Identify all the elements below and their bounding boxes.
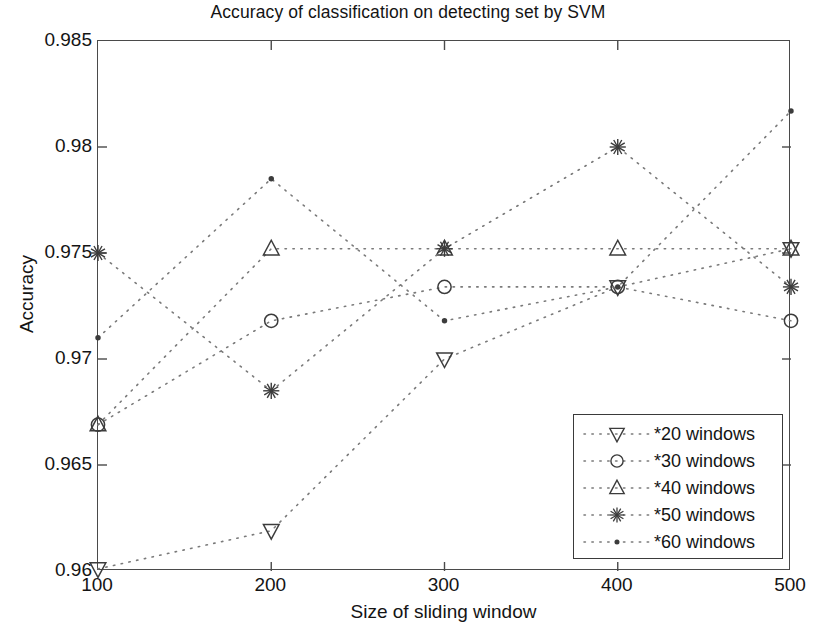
x-tick-label: 500 [774, 574, 806, 596]
y-tick-label: 0.975 [44, 241, 92, 263]
legend-sample-svg [580, 531, 654, 553]
legend-item-3[interactable]: *40 windows [574, 474, 782, 501]
data-point-marker-up-triangle [263, 240, 279, 255]
legend-marker-down-triangle-icon [580, 423, 654, 445]
legend-label: *40 windows [654, 477, 755, 499]
legend-marker-dot-icon [580, 531, 654, 553]
y-tick-label: 0.965 [44, 453, 92, 475]
x-axis-tick-labels: 100200300400500 [97, 574, 790, 600]
chart-legend: *20 windows*30 windows*40 windows*50 win… [573, 414, 783, 559]
data-point-marker-down-triangle [263, 525, 279, 540]
data-point-marker-dot [442, 318, 447, 323]
chart-figure: Accuracy of classification on detecting … [0, 0, 816, 634]
data-point-marker-asterisk [90, 245, 106, 261]
data-point-marker-dot [614, 539, 619, 544]
legend-sample-svg [580, 450, 654, 472]
series-line [98, 287, 791, 425]
y-axis-tick-labels: 0.960.9650.970.9750.980.985 [0, 40, 92, 570]
data-point-marker-down-triangle [610, 428, 624, 441]
series-line [98, 111, 791, 338]
x-axis-label: Size of sliding window [97, 601, 790, 623]
series-4 [90, 139, 799, 399]
series-3 [90, 240, 799, 431]
legend-sample-svg [580, 504, 654, 526]
x-tick-label: 200 [254, 574, 286, 596]
data-point-marker-asterisk [783, 279, 799, 295]
series-2 [91, 280, 797, 431]
legend-marker-asterisk-icon [580, 504, 654, 526]
series-line [98, 249, 791, 425]
data-point-marker-dot [788, 108, 793, 113]
data-point-marker-dot [615, 284, 620, 289]
legend-marker-circle-icon [580, 450, 654, 472]
data-point-marker-asterisk [610, 507, 625, 522]
data-point-marker-down-triangle [437, 353, 453, 368]
legend-sample-svg [580, 423, 654, 445]
data-point-marker-up-triangle [610, 240, 626, 255]
legend-item-1[interactable]: *20 windows [574, 420, 782, 447]
legend-label: *50 windows [654, 504, 755, 526]
chart-title: Accuracy of classification on detecting … [0, 2, 816, 23]
data-point-marker-circle [265, 314, 278, 327]
series-5 [95, 108, 793, 340]
legend-label: *20 windows [654, 423, 755, 445]
legend-item-5[interactable]: *60 windows [574, 528, 782, 555]
legend-item-4[interactable]: *50 windows [574, 501, 782, 528]
y-tick-label: 0.97 [55, 347, 92, 369]
data-point-marker-dot [269, 176, 274, 181]
y-axis-label: Accuracy [16, 204, 38, 384]
data-point-marker-up-triangle [610, 480, 624, 493]
legend-marker-up-triangle-icon [580, 477, 654, 499]
legend-label: *60 windows [654, 531, 755, 553]
data-point-marker-dot [95, 335, 100, 340]
legend-sample-svg [580, 477, 654, 499]
y-tick-label: 0.985 [44, 29, 92, 51]
legend-item-2[interactable]: *30 windows [574, 447, 782, 474]
legend-label: *30 windows [654, 450, 755, 472]
x-tick-label: 300 [428, 574, 460, 596]
y-tick-label: 0.98 [55, 135, 92, 157]
x-tick-label: 100 [81, 574, 113, 596]
x-tick-label: 400 [601, 574, 633, 596]
series-line [98, 147, 791, 391]
data-point-marker-asterisk [610, 139, 626, 155]
